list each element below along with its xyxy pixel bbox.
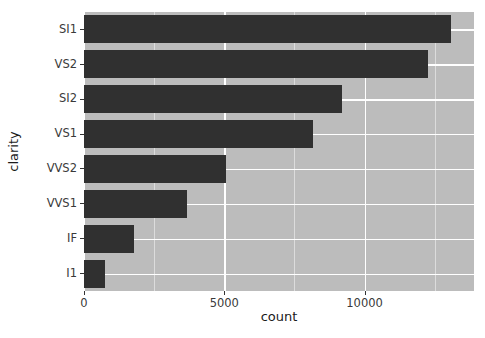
y-tick-label: VS2 <box>55 59 77 71</box>
bar-SI2 <box>84 85 342 113</box>
gridline-horizontal-major <box>84 239 474 240</box>
x-tick-mark <box>84 291 85 295</box>
gridline-vertical-minor <box>435 12 436 291</box>
bar-VVS2 <box>84 155 226 183</box>
bar-VVS1 <box>84 190 187 218</box>
y-axis: SI1VS2SI2VS1VVS2VVS1IFI1 <box>26 12 84 291</box>
y-tick-label: VS1 <box>55 128 77 140</box>
bar-VS1 <box>84 120 313 148</box>
y-tick-label: SI1 <box>59 24 77 36</box>
y-tick-label: VVS2 <box>47 163 77 175</box>
gridline-horizontal-major <box>84 274 474 275</box>
y-axis-title: clarity <box>0 0 26 303</box>
bar-I1 <box>84 260 105 288</box>
bar-SI1 <box>84 15 451 43</box>
y-axis-title-text: clarity <box>6 131 21 171</box>
x-axis: 0500010000 <box>84 291 474 311</box>
y-tick-label: VVS1 <box>47 198 77 210</box>
x-axis-title: count <box>84 309 474 324</box>
bar-VS2 <box>84 50 428 78</box>
plot-panel <box>84 12 474 291</box>
bar-chart-figure: clarity SI1VS2SI2VS1VVS2VVS1IFI1 0500010… <box>0 0 485 338</box>
x-tick-label-5000: 5000 <box>210 296 239 310</box>
x-tick-mark <box>224 291 225 295</box>
y-tick-label: I1 <box>66 268 77 280</box>
bar-IF <box>84 225 134 253</box>
x-tick-label-0: 0 <box>80 296 87 310</box>
x-tick-mark <box>365 291 366 295</box>
y-tick-label: SI2 <box>59 93 77 105</box>
y-tick-label: IF <box>67 233 77 245</box>
x-tick-label-10000: 10000 <box>346 296 383 310</box>
